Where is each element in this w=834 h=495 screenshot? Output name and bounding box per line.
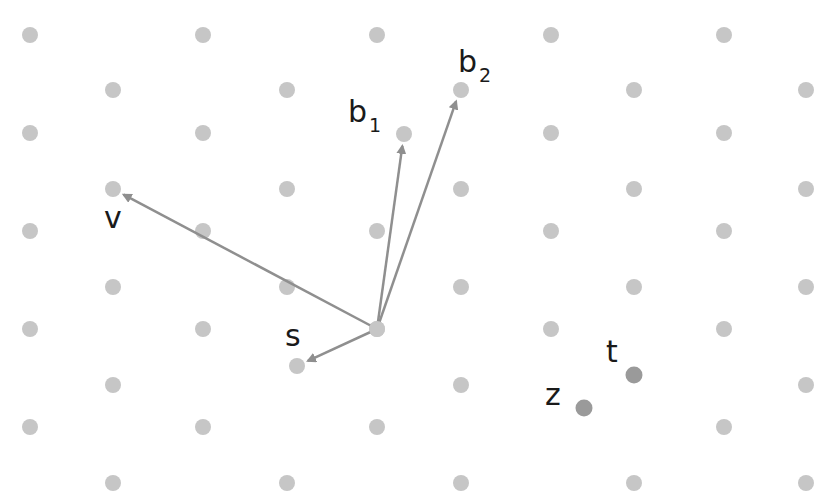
lattice-point xyxy=(22,321,38,337)
label-z: z xyxy=(545,377,561,412)
lattice-point xyxy=(716,27,732,43)
lattice-point xyxy=(195,321,211,337)
label-b2: b2 xyxy=(458,44,491,86)
lattice-point xyxy=(369,419,385,435)
lattice-point xyxy=(453,377,469,393)
vector-s-arrow xyxy=(308,329,377,361)
lattice-point xyxy=(798,82,814,98)
lattice-point xyxy=(22,223,38,239)
lattice-point xyxy=(798,475,814,491)
lattice-point xyxy=(279,181,295,197)
vector-v-arrow xyxy=(124,195,377,329)
lattice-point xyxy=(105,279,121,295)
lattice-point xyxy=(798,377,814,393)
lattice-point xyxy=(369,223,385,239)
lattice-point xyxy=(453,475,469,491)
lattice-point xyxy=(716,125,732,141)
lattice-point xyxy=(453,279,469,295)
lattice-point xyxy=(543,27,559,43)
lattice-point-b1-tip xyxy=(396,126,412,142)
lattice-point xyxy=(626,475,642,491)
lattice-point xyxy=(453,181,469,197)
lattice-point xyxy=(626,82,642,98)
lattice-point xyxy=(716,419,732,435)
lattice-point xyxy=(543,125,559,141)
lattice-point xyxy=(279,82,295,98)
point-z xyxy=(576,400,593,417)
lattice-point xyxy=(716,321,732,337)
lattice-point xyxy=(279,475,295,491)
labels-group: b1 b2 v s t z xyxy=(104,44,618,412)
label-v: v xyxy=(104,200,122,235)
lattice-point xyxy=(22,125,38,141)
label-b1: b1 xyxy=(348,94,381,136)
origin-point xyxy=(369,321,385,337)
lattice-point xyxy=(195,419,211,435)
lattice-point xyxy=(105,181,121,197)
lattice-point xyxy=(195,27,211,43)
lattice-point xyxy=(195,125,211,141)
lattice-point xyxy=(369,27,385,43)
lattice-point xyxy=(798,279,814,295)
lattice-diagram: b1 b2 v s t z xyxy=(0,0,834,495)
special-points-group xyxy=(576,367,643,417)
lattice-point xyxy=(543,223,559,239)
point-t xyxy=(626,367,643,384)
lattice-point xyxy=(798,181,814,197)
lattice-point xyxy=(105,475,121,491)
lattice-point-s-tip xyxy=(289,358,305,374)
vector-b2-arrow xyxy=(377,101,456,329)
lattice-point xyxy=(22,27,38,43)
lattice-points-group xyxy=(22,27,814,491)
label-s: s xyxy=(285,318,301,353)
lattice-point xyxy=(626,279,642,295)
lattice-point xyxy=(626,181,642,197)
lattice-point xyxy=(716,223,732,239)
lattice-point xyxy=(453,82,469,98)
lattice-point xyxy=(105,82,121,98)
lattice-point xyxy=(105,377,121,393)
lattice-point xyxy=(543,321,559,337)
lattice-point xyxy=(22,419,38,435)
label-t: t xyxy=(606,334,618,369)
